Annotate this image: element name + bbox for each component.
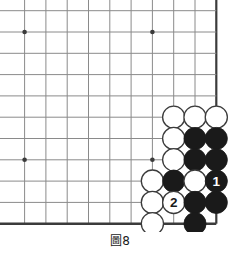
stones-layer: 12 bbox=[141, 106, 227, 232]
black-stone-disc[interactable] bbox=[205, 127, 227, 149]
white-stone-disc[interactable] bbox=[141, 191, 163, 213]
black-stone[interactable] bbox=[205, 191, 227, 213]
black-stone[interactable] bbox=[163, 170, 185, 192]
star-point bbox=[150, 158, 155, 163]
white-stone[interactable] bbox=[163, 149, 185, 171]
black-stone-disc[interactable] bbox=[184, 127, 206, 149]
black-stone[interactable]: 1 bbox=[205, 170, 227, 192]
black-stone-disc[interactable] bbox=[205, 191, 227, 213]
white-stone[interactable] bbox=[141, 213, 163, 232]
black-stone-disc[interactable] bbox=[184, 149, 206, 171]
white-stone[interactable] bbox=[184, 106, 206, 128]
move-number-1: 1 bbox=[213, 174, 221, 189]
black-stone[interactable] bbox=[184, 149, 206, 171]
white-stone[interactable] bbox=[184, 170, 206, 192]
white-stone-disc[interactable] bbox=[141, 170, 163, 192]
white-stone-disc[interactable] bbox=[141, 213, 163, 232]
white-stone-disc[interactable] bbox=[184, 170, 206, 192]
white-stone[interactable]: 2 bbox=[163, 191, 185, 213]
star-point bbox=[22, 158, 27, 163]
black-stone[interactable] bbox=[205, 149, 227, 171]
white-stone-disc[interactable] bbox=[205, 106, 227, 128]
black-stone[interactable] bbox=[184, 191, 206, 213]
black-stone-disc[interactable] bbox=[205, 149, 227, 171]
black-stone[interactable] bbox=[184, 213, 206, 232]
star-point bbox=[22, 30, 27, 35]
go-board: 12 bbox=[0, 0, 240, 232]
white-stone-disc[interactable] bbox=[163, 106, 185, 128]
white-stone-disc[interactable] bbox=[163, 149, 185, 171]
white-stone-disc[interactable] bbox=[184, 106, 206, 128]
white-stone[interactable] bbox=[141, 170, 163, 192]
black-stone-disc[interactable] bbox=[184, 191, 206, 213]
white-stone-disc[interactable] bbox=[163, 127, 185, 149]
black-stone[interactable] bbox=[184, 127, 206, 149]
white-stone[interactable] bbox=[205, 106, 227, 128]
figure-caption-text: 圖8 bbox=[110, 234, 130, 248]
white-stone[interactable] bbox=[163, 127, 185, 149]
figure-caption: 圖8 bbox=[0, 232, 240, 250]
white-stone[interactable] bbox=[163, 106, 185, 128]
black-stone-disc[interactable] bbox=[184, 213, 206, 232]
white-stone[interactable] bbox=[141, 191, 163, 213]
move-number-2: 2 bbox=[170, 195, 178, 210]
go-diagram: 12 bbox=[0, 0, 240, 232]
black-stone[interactable] bbox=[205, 127, 227, 149]
star-point bbox=[150, 30, 155, 35]
black-stone-disc[interactable] bbox=[163, 170, 185, 192]
